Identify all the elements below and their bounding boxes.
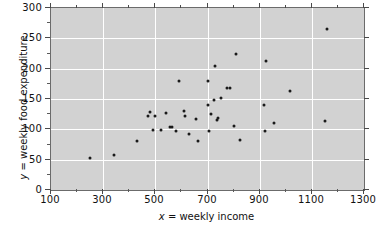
y-axis-tick bbox=[45, 159, 50, 160]
data-point bbox=[154, 114, 157, 117]
y-axis-title-container: y = weekly food expenditure bbox=[12, 17, 31, 199]
x-axis-tick-top bbox=[102, 3, 103, 8]
gridline-horizontal bbox=[51, 160, 364, 161]
data-point bbox=[159, 128, 162, 131]
data-point bbox=[184, 114, 187, 117]
plot-area bbox=[50, 7, 365, 191]
y-axis-tick bbox=[45, 128, 50, 129]
x-axis-tick-label: 100 bbox=[40, 194, 60, 205]
y-axis-tick bbox=[45, 7, 50, 8]
x-axis-minor-tick bbox=[180, 189, 181, 192]
data-point bbox=[262, 104, 265, 107]
data-point bbox=[177, 79, 180, 82]
data-point bbox=[288, 89, 291, 92]
x-axis-tick-top bbox=[207, 3, 208, 8]
x-axis-minor-tick-top bbox=[233, 5, 234, 8]
x-axis-minor-tick-top bbox=[180, 5, 181, 8]
y-axis-tick-right bbox=[364, 98, 369, 99]
data-point bbox=[323, 120, 326, 123]
data-point bbox=[206, 104, 209, 107]
x-axis-tick-top bbox=[259, 3, 260, 8]
x-axis-tick-top bbox=[154, 3, 155, 8]
y-axis-tick-right bbox=[364, 37, 369, 38]
y-axis-tick bbox=[45, 98, 50, 99]
x-axis-minor-tick bbox=[76, 189, 77, 192]
x-axis-minor-tick bbox=[233, 189, 234, 192]
data-point bbox=[263, 130, 266, 133]
y-axis-tick-label: 0 bbox=[0, 184, 42, 195]
x-axis-minor-tick-top bbox=[76, 5, 77, 8]
data-point bbox=[239, 138, 242, 141]
data-point bbox=[151, 128, 154, 131]
data-point bbox=[183, 110, 186, 113]
x-axis-tick-top bbox=[50, 3, 51, 8]
data-point bbox=[146, 114, 149, 117]
data-point bbox=[326, 28, 329, 31]
y-axis-minor-tick bbox=[47, 113, 50, 114]
data-point bbox=[207, 130, 210, 133]
x-axis-tick-label: 1100 bbox=[298, 194, 324, 205]
x-axis-minor-tick-top bbox=[285, 5, 286, 8]
y-axis-tick-right bbox=[364, 128, 369, 129]
data-point bbox=[265, 60, 268, 63]
data-point bbox=[136, 139, 139, 142]
y-axis-tick-right bbox=[364, 189, 369, 190]
data-point bbox=[164, 111, 167, 114]
data-point bbox=[273, 121, 276, 124]
data-point bbox=[228, 87, 231, 90]
y-axis-tick bbox=[45, 189, 50, 190]
gridline-horizontal bbox=[51, 38, 364, 39]
data-point bbox=[206, 79, 209, 82]
y-axis-tick-label: 150 bbox=[0, 93, 42, 104]
x-axis-minor-tick bbox=[128, 189, 129, 192]
x-axis-tick-label: 500 bbox=[144, 194, 164, 205]
x-axis-tick-top bbox=[311, 3, 312, 8]
y-axis-tick-label: 300 bbox=[0, 2, 42, 13]
x-axis-minor-tick bbox=[337, 189, 338, 192]
x-axis-tick-label: 900 bbox=[249, 194, 269, 205]
y-axis-tick-right bbox=[364, 159, 369, 160]
x-axis-title: x = weekly income bbox=[50, 211, 363, 222]
y-axis-tick-label: 100 bbox=[0, 123, 42, 134]
data-point bbox=[216, 116, 219, 119]
data-point bbox=[149, 110, 152, 113]
data-point bbox=[235, 52, 238, 55]
data-point bbox=[112, 153, 115, 156]
y-axis-tick bbox=[45, 37, 50, 38]
y-axis-minor-tick bbox=[47, 83, 50, 84]
data-point bbox=[232, 124, 235, 127]
x-axis-tick-label: 700 bbox=[197, 194, 217, 205]
y-axis-minor-tick bbox=[47, 144, 50, 145]
data-point bbox=[89, 156, 92, 159]
gridline-horizontal bbox=[51, 99, 364, 100]
data-point bbox=[219, 97, 222, 100]
y-axis-tick-label: 50 bbox=[0, 154, 42, 165]
data-point bbox=[214, 64, 217, 67]
x-axis-tick-label: 300 bbox=[92, 194, 112, 205]
data-point bbox=[171, 125, 174, 128]
data-point bbox=[197, 139, 200, 142]
x-axis-tick-label: 1300 bbox=[350, 194, 376, 205]
y-axis-minor-tick bbox=[47, 22, 50, 23]
x-axis-minor-tick-top bbox=[337, 5, 338, 8]
y-axis-minor-tick bbox=[47, 174, 50, 175]
y-axis-minor-tick bbox=[47, 53, 50, 54]
y-axis-tick-right bbox=[364, 7, 369, 8]
data-point bbox=[194, 118, 197, 121]
x-axis-minor-tick-top bbox=[128, 5, 129, 8]
gridline-horizontal bbox=[51, 69, 364, 70]
data-point bbox=[175, 129, 178, 132]
x-axis-minor-tick bbox=[285, 189, 286, 192]
y-axis-tick-right bbox=[364, 68, 369, 69]
data-point bbox=[213, 99, 216, 102]
data-point bbox=[188, 133, 191, 136]
data-point bbox=[210, 112, 213, 115]
y-axis-tick-label: 250 bbox=[0, 32, 42, 43]
y-axis-tick-label: 200 bbox=[0, 63, 42, 74]
y-axis-tick bbox=[45, 68, 50, 69]
